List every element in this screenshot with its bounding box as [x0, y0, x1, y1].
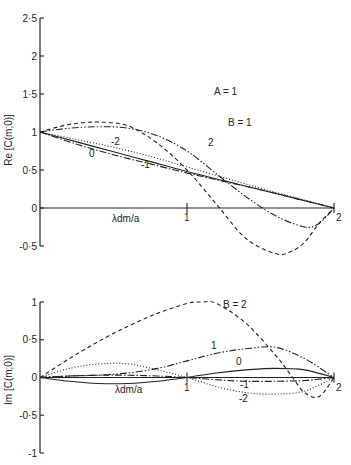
y-tick-label: 0 — [31, 372, 37, 383]
chart-figure: -0·500·511·522·512λdm/aRe [C(m;0)]2B = 1… — [0, 0, 351, 465]
y-axis-label: Re [C(m;0)] — [3, 114, 14, 166]
series-label: 1 — [211, 340, 217, 351]
im-panel: -1-0·500·5112λdm/aIm [C(m;0)]B = 210-1-2 — [3, 297, 342, 459]
y-tick-label: -0·5 — [19, 410, 37, 421]
series-label: 0 — [236, 356, 242, 367]
y-tick-label: 1·5 — [23, 89, 38, 100]
x-axis-label: λdm/a — [112, 213, 140, 224]
re-panel: -0·500·511·522·512λdm/aRe [C(m;0)]2B = 1… — [3, 13, 342, 255]
y-tick-label: -0·5 — [19, 241, 37, 252]
x-tick-label: 2 — [336, 382, 342, 393]
x-tick-label: 2 — [336, 212, 342, 223]
series-label: 2 — [208, 137, 214, 148]
y-axis-label: Im [C(m;0)] — [3, 355, 14, 405]
x-axis-label: λdm/a — [115, 384, 143, 395]
y-tick-label: 1 — [31, 297, 37, 308]
y-tick-label: 0·5 — [23, 334, 38, 345]
series-label: -1 — [141, 159, 150, 170]
series-line-b2 — [40, 122, 334, 255]
series-label: B = 2 — [223, 299, 247, 310]
y-tick-label: 2 — [31, 51, 37, 62]
series-label: -2 — [111, 136, 120, 147]
y-tick-label: 1 — [31, 127, 37, 138]
x-tick-label: 1 — [184, 212, 190, 223]
y-tick-label: -1 — [28, 448, 37, 459]
annotation-label: A = 1 — [214, 86, 238, 97]
series-label: -2 — [239, 393, 248, 404]
y-tick-label: 0 — [31, 203, 37, 214]
y-tick-label: 0·5 — [23, 165, 38, 176]
x-tick-label: 1 — [184, 382, 190, 393]
series-label: B = 1 — [228, 117, 252, 128]
series-label: -1 — [240, 379, 249, 390]
y-tick-label: 2·5 — [23, 13, 38, 24]
